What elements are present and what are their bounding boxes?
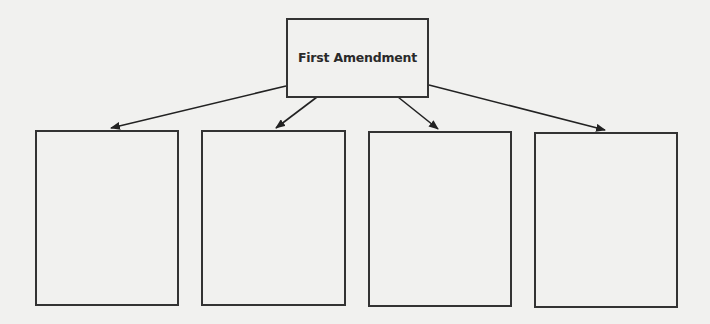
child-box-3[interactable] [368, 131, 512, 307]
root-label: First Amendment [298, 50, 417, 65]
root-box: First Amendment [286, 18, 429, 98]
arrow-to-box-4 [429, 85, 605, 130]
concept-diagram: First Amendment [0, 0, 710, 324]
child-box-1[interactable] [35, 130, 179, 306]
arrow-to-box-1 [111, 86, 286, 128]
arrow-to-box-3 [398, 97, 438, 129]
child-box-4[interactable] [534, 132, 678, 308]
child-box-2[interactable] [201, 130, 346, 306]
arrow-to-box-2 [276, 97, 317, 128]
